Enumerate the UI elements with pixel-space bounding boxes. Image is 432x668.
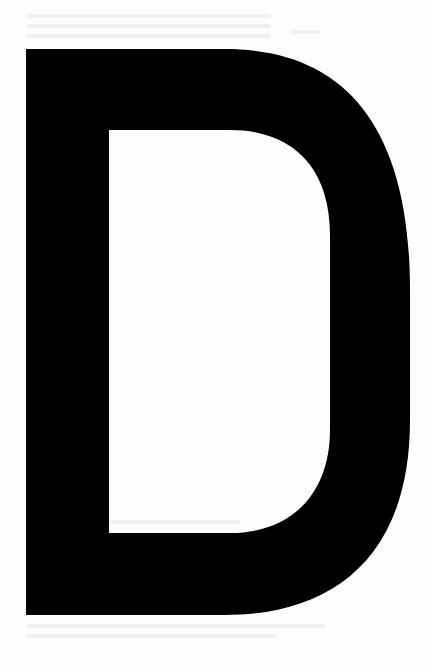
letter-d-glyph <box>0 0 432 668</box>
scanned-page: D <box>0 0 432 668</box>
